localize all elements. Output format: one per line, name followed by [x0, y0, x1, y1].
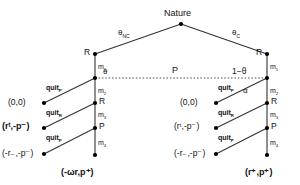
node-left-payoff-2	[42, 126, 46, 130]
info-set-player-label: P	[172, 66, 178, 75]
left-node-R-mid-label: R	[99, 97, 105, 106]
node-right-R-top	[265, 52, 269, 56]
right-quit-label-1-text: quit	[218, 84, 231, 91]
left-payoff-2: (rᵗ,-p⁻)	[2, 122, 29, 131]
right-move-m1-sub: 1	[276, 67, 278, 72]
right-quit-label-2-sub: R	[231, 113, 234, 118]
right-quit-label-3: quitP	[218, 134, 234, 141]
branch-label-right: θC	[232, 29, 240, 37]
left-quit-label-1: quitP	[46, 84, 62, 91]
left-terminal-payoff: (-ωr,p⁺)	[61, 168, 94, 177]
left-move-m2-sub: 2	[104, 91, 106, 96]
node-right-R-mid	[265, 101, 269, 105]
node-left-R-top	[93, 52, 97, 56]
node-right-payoff-2	[214, 126, 218, 130]
right-node-R-mid-label: R	[271, 97, 277, 106]
right-quit-label-2-text: quit	[218, 109, 231, 116]
left-quit-label-3: quitP	[46, 134, 62, 141]
node-right-payoff-3	[214, 152, 218, 156]
right-move-m3: m3	[270, 111, 278, 118]
right-payoff-3: (-r₋,-p⁻)	[174, 149, 205, 158]
right-move-m2-sub: 2	[276, 91, 278, 96]
node-left-R-mid	[93, 101, 97, 105]
left-node-P-low-label: P	[99, 122, 105, 131]
right-quit-label-1-sub: P	[231, 88, 234, 93]
node-left-P-info	[93, 76, 97, 80]
branch-label-left: θNC	[118, 29, 130, 37]
left-move-m4-sub: 4	[104, 143, 106, 148]
edge-nature-left	[95, 24, 181, 54]
left-payoff-3: (-r₋,-p⁻)	[2, 149, 33, 158]
right-move-m3-sub: 3	[276, 115, 278, 120]
right-quit-label-1: quitP	[218, 84, 234, 91]
left-quit-label-1-text: quit	[46, 84, 59, 91]
left-move-m3-sub: 3	[104, 115, 106, 120]
nature-label: Nature	[164, 9, 191, 18]
info-right-action: α	[243, 87, 248, 95]
right-payoff-1: (0,0)	[180, 98, 197, 107]
left-quit-label-1-sub: P	[59, 88, 62, 93]
left-move-m4: m4	[98, 139, 106, 146]
left-quit-label-3-sub: P	[59, 138, 62, 143]
node-right-terminal	[265, 153, 269, 157]
left-payoff-1: (0,0)	[8, 98, 25, 107]
right-quit-label-3-sub: P	[231, 138, 234, 143]
right-quit-label-2: quitR	[218, 109, 234, 116]
right-node-R-top-label: R	[256, 48, 262, 57]
game-tree-diagram: Nature θNC θC R R P m1 m2 m3 m4 quitP qu…	[0, 0, 300, 185]
node-right-P-low	[265, 126, 269, 130]
right-move-m2: m2	[270, 87, 278, 94]
right-move-m4-sub: 4	[276, 143, 278, 148]
right-node-P-low-label: P	[271, 122, 277, 131]
left-node-R-top-label: R	[84, 48, 90, 57]
info-right-prob: 1−θ	[232, 67, 246, 76]
node-nature	[179, 22, 183, 26]
node-left-terminal	[93, 153, 97, 157]
right-payoff-2: (rᵗ,-p⁻)	[174, 122, 199, 131]
node-right-payoff-1	[214, 101, 218, 105]
node-right-P-info	[265, 76, 269, 80]
right-move-m4: m4	[270, 139, 278, 146]
edge-nature-right	[181, 24, 267, 54]
left-quit-label-2-sub: R	[59, 113, 62, 118]
node-left-payoff-3	[42, 152, 46, 156]
left-move-m2: m2	[98, 87, 106, 94]
right-move-m1: m1	[270, 63, 278, 70]
info-left-prob: θ	[103, 68, 107, 76]
tree-edges-layer	[0, 0, 300, 185]
right-terminal-payoff: (r⁺,p⁺)	[245, 168, 273, 177]
left-move-m3: m3	[98, 111, 106, 118]
right-quit-label-3-text: quit	[218, 134, 231, 141]
left-quit-label-3-text: quit	[46, 134, 59, 141]
branch-label-right-sub: C	[236, 34, 240, 39]
node-left-P-low	[93, 126, 97, 130]
branch-label-left-sub: NC	[122, 34, 129, 39]
node-left-payoff-1	[42, 101, 46, 105]
left-quit-label-2: quitR	[46, 109, 62, 116]
left-quit-label-2-text: quit	[46, 109, 59, 116]
